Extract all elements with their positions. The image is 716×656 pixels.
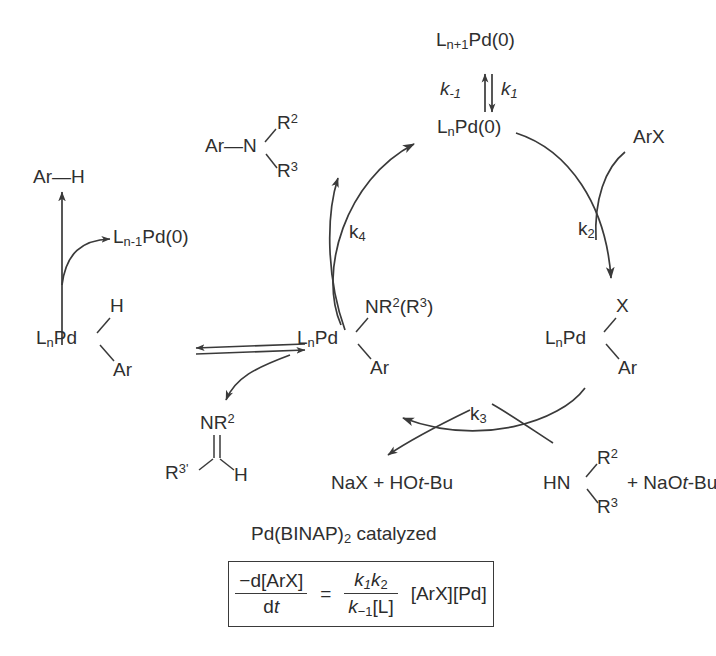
diagram-linework [0, 0, 716, 656]
species-pd-minus-one: Ln-1Pd(0) [113, 227, 189, 248]
species-imine-h: H [234, 465, 248, 485]
rate-law-right-fraction: k1k2 k−1[L] [344, 569, 397, 619]
species-imine-r3: R3' [165, 462, 188, 483]
rate-law-denominator: dt [235, 594, 307, 618]
cycle-arc-transmetalation [403, 388, 585, 431]
species-ligand-adduct: Ln+1Pd(0) [436, 30, 515, 51]
amine-reactant-r2: R2 [597, 447, 618, 468]
rate-law-box: −d[ArX] dt = k1k2 k−1[L] [ArX][Pd] [228, 561, 494, 627]
label-k-2: k2 [578, 219, 595, 240]
species-pd-zero: LnPd(0) [437, 117, 501, 138]
arrow-byproduct-output [388, 410, 470, 455]
equilibrium-arrows-beta-hydride [196, 344, 305, 354]
hydride-complex-ar: Ar [113, 360, 132, 380]
bonds-amine-product [265, 129, 277, 168]
species-amine-reactant: HN [543, 473, 570, 493]
arrow-arx-input [596, 152, 625, 240]
arrow-amine-base-input [492, 404, 553, 443]
rate-law-numerator: −d[ArX] [235, 570, 307, 594]
label-k-3: k3 [470, 404, 487, 425]
cycle-arc-oxidative-addition [516, 133, 611, 278]
species-amido-complex: LnPd [297, 328, 338, 349]
species-arene: Ar—H [33, 167, 85, 187]
equilibrium-arrows-ligand-dissociation [485, 74, 492, 112]
bonds-amido-complex [356, 318, 371, 359]
arrow-arene-release [62, 192, 110, 345]
oxidative-addition-complex-x: X [616, 296, 629, 316]
label-k-4: k4 [349, 222, 366, 243]
species-hydride-complex: LnPd [36, 328, 77, 349]
arrow-amine-product [330, 178, 345, 330]
label-k-minus-1: k-1 [440, 79, 461, 100]
rate-law-left-fraction: −d[ArX] dt [235, 570, 307, 618]
rate-law-equals: = [320, 583, 331, 605]
hydride-complex-h: H [110, 296, 124, 316]
label-k-1: k1 [501, 79, 518, 100]
bonds-imine [199, 435, 234, 470]
arrow-imine-elimination [226, 355, 290, 400]
rate-law-rate-constants-numerator: k1k2 [344, 569, 397, 594]
oxidative-addition-complex-ar: Ar [618, 358, 637, 378]
amido-complex-ar: Ar [370, 358, 389, 378]
species-aryl-halide: ArX [633, 127, 665, 147]
amine-reactant-r3: R3 [597, 496, 618, 517]
reaction-mechanism-diagram: Ln+1Pd(0) k-1 k1 LnPd(0) ArX k2 k4 k3 Ar… [0, 0, 716, 656]
diagram-caption: Pd(BINAP)2 catalyzed [251, 524, 437, 545]
species-byproducts: NaX + HOt-Bu [331, 473, 453, 493]
species-base: + NaOt-Bu [627, 473, 716, 493]
species-oxidative-addition-complex: LnPd [545, 328, 586, 349]
amine-product-r3: R3 [277, 160, 298, 181]
species-amine-product: Ar—N [205, 136, 257, 156]
rate-law-concentration-terms: [ArX][Pd] [411, 583, 487, 605]
amine-product-r2: R2 [277, 112, 298, 133]
rate-law-rate-constants-denominator: k−1[L] [344, 594, 397, 619]
amido-complex-amide-group: NR2(R3) [365, 296, 433, 317]
species-imine-nr2: NR2 [200, 412, 235, 433]
bonds-oxidative-addition-complex [604, 318, 619, 359]
bonds-hydride-complex [97, 318, 114, 361]
